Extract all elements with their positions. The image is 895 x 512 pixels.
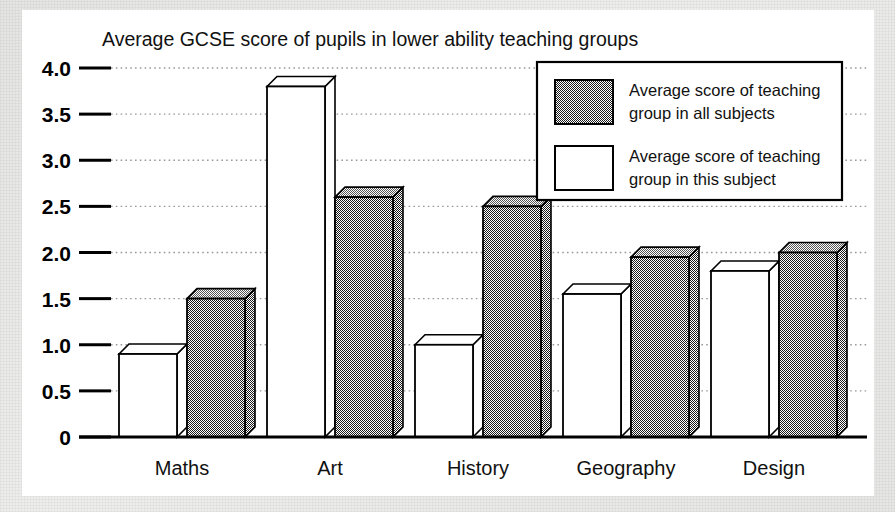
x-axis-label-history: History: [447, 457, 509, 479]
y-tick-label: 4.0: [42, 57, 71, 80]
x-axis-label-art: Art: [317, 457, 343, 479]
x-axis-label-design: Design: [743, 457, 805, 479]
y-axis-ticks: 4.03.53.02.52.01.51.00.50: [42, 57, 111, 449]
chart-canvas: Average GCSE score of pupils in lower ab…: [22, 10, 874, 496]
bar-white-art: [267, 76, 335, 437]
bar-shaded-geography: [631, 247, 699, 437]
y-tick-label: 1.5: [42, 288, 72, 311]
chart-title: Average GCSE score of pupils in lower ab…: [102, 28, 638, 50]
x-axis-label-geography: Geography: [577, 457, 676, 479]
x-axis-label-maths: Maths: [155, 457, 209, 479]
legend-label-line1: Average score of teaching: [629, 147, 820, 165]
bar-chart: Average GCSE score of pupils in lower ab…: [22, 10, 874, 496]
bar-shaded-maths: [187, 289, 255, 437]
legend-label-line2: group in this subject: [629, 170, 776, 188]
legend-label-line1: Average score of teaching: [629, 81, 820, 99]
bar-white-maths: [119, 344, 187, 437]
legend-swatch-white: [555, 146, 613, 190]
chart-legend: Average score of teachinggroup in all su…: [537, 62, 842, 200]
y-tick-label: 0: [59, 426, 71, 449]
x-axis-labels: MathsArtHistoryGeographyDesign: [155, 457, 805, 479]
y-tick-label: 1.0: [42, 334, 71, 357]
bar-white-history: [415, 335, 483, 437]
y-tick-label: 2.5: [42, 195, 72, 218]
y-tick-label: 3.0: [42, 149, 71, 172]
bar-white-geography: [563, 284, 631, 437]
bar-shaded-history: [483, 196, 551, 437]
y-tick-label: 3.5: [42, 103, 72, 126]
chart-page: Average GCSE score of pupils in lower ab…: [22, 10, 874, 496]
bar-shaded-art: [335, 187, 403, 437]
y-tick-label: 0.5: [42, 380, 72, 403]
bar-white-design: [711, 261, 779, 437]
y-tick-label: 2.0: [42, 242, 71, 265]
bar-shaded-design: [779, 243, 847, 438]
legend-label-line2: group in all subjects: [629, 104, 775, 122]
legend-swatch-shaded: [555, 80, 613, 124]
